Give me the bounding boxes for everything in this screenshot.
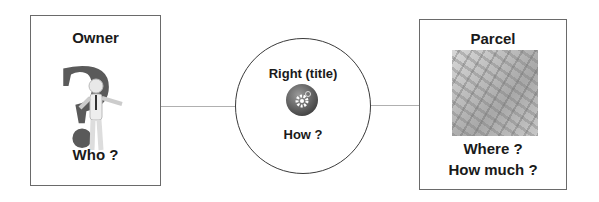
parcel-title: Parcel	[420, 30, 566, 47]
parcel-map-image	[452, 50, 538, 136]
owner-question: Who ?	[31, 146, 160, 163]
right-question: How ?	[236, 127, 370, 142]
gear-icon	[286, 84, 318, 116]
parcel-question-where: Where ?	[420, 140, 566, 157]
connector-owner-right	[161, 106, 235, 107]
connector-right-parcel	[371, 105, 419, 106]
parcel-question-how-much: How much ?	[420, 161, 566, 178]
right-circle: Right (title) How ?	[235, 38, 371, 174]
owner-box: Owner ? Who ?	[30, 15, 161, 186]
right-title: Right (title)	[236, 66, 370, 81]
